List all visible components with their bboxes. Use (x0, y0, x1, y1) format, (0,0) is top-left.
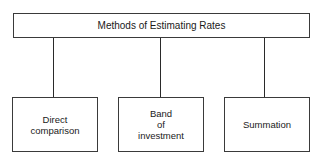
child-node-label: Direct comparison (30, 114, 79, 136)
child-node-label: Summation (243, 119, 291, 130)
child-node-band-of-investment: Band of investment (118, 97, 204, 152)
root-node-label: Methods of Estimating Rates (98, 20, 226, 31)
child-node-summation: Summation (224, 97, 310, 152)
root-node-methods-of-estimating-rates: Methods of Estimating Rates (13, 13, 310, 38)
connector-line-direct-comparison (53, 38, 54, 97)
child-node-label: Band of investment (138, 108, 184, 141)
child-node-direct-comparison: Direct comparison (12, 97, 98, 152)
connector-line-band-of-investment (160, 38, 161, 97)
connector-line-summation (264, 38, 265, 97)
